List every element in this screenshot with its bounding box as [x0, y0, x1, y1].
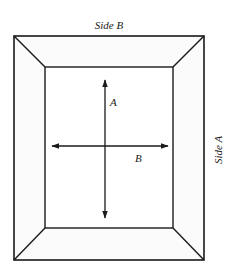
label-side-b: Side B — [95, 19, 124, 31]
frame-diagram: Side B Side A A B — [0, 0, 235, 275]
label-arrow-a: A — [109, 96, 117, 108]
label-side-a: Side A — [212, 136, 224, 164]
inner-panel — [45, 67, 173, 228]
label-arrow-b: B — [135, 152, 142, 164]
